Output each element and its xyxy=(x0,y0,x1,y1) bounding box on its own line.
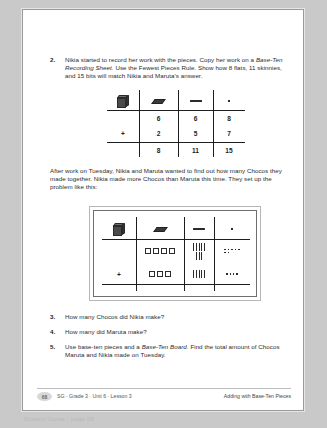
row2-bits-value: 7 xyxy=(227,130,231,137)
flat-piece xyxy=(161,248,167,254)
skinny-tally-group xyxy=(193,243,204,260)
textbook-page: 2. Nikia started to record her work with… xyxy=(22,9,304,411)
flat-piece xyxy=(153,248,159,254)
pieces-row2-bits xyxy=(214,265,250,283)
pieces-header-rule xyxy=(102,239,250,240)
bit-piece xyxy=(224,249,226,251)
skinny-piece xyxy=(204,243,205,251)
row1-bits-value: 8 xyxy=(227,115,231,122)
pieces-header-flat-cell xyxy=(136,220,184,238)
skinny-piece xyxy=(201,252,202,260)
row1-bits: 8 xyxy=(213,111,245,126)
skinny-piece xyxy=(199,270,200,278)
flat-piece xyxy=(149,271,155,277)
skinny-icon xyxy=(193,228,205,230)
pieces-header-bit-cell xyxy=(214,220,250,238)
pieces-row1-skinnies xyxy=(184,240,214,262)
footer-breadcrumb: SG · Grade 3 · Unit 6 · Lesson 3 xyxy=(57,393,132,399)
skinny-piece xyxy=(204,270,205,278)
bit-piece xyxy=(224,252,226,254)
skinny-piece xyxy=(196,252,197,260)
bit-piece xyxy=(228,252,230,254)
flat-icon xyxy=(151,99,166,104)
skinny-piece xyxy=(193,243,194,251)
question-3-number: 3. xyxy=(50,313,55,320)
question-3-text: How many Chocos did Nikia make? xyxy=(65,313,285,321)
row3-skinnies-value: 11 xyxy=(192,147,199,154)
question-4: 4. How many did Maruta make? xyxy=(50,328,285,336)
question-5-text: Use base-ten pieces and a Base-Ten Board… xyxy=(65,343,285,359)
skinny-piece xyxy=(199,243,200,251)
skinny-piece xyxy=(196,243,197,251)
bit-piece xyxy=(233,273,235,275)
page-number-badge: 68 xyxy=(37,392,52,401)
skinny-piece xyxy=(201,270,202,278)
row1-skinnies: 6 xyxy=(178,111,213,126)
questions-list: 3. How many Chocos did Nikia make? 4. Ho… xyxy=(50,313,285,366)
row1-flats-value: 6 xyxy=(157,115,161,122)
footer-lesson-title: Adding with Base-Ten Pieces xyxy=(224,393,291,399)
page-footer: 68 SG · Grade 3 · Unit 6 · Lesson 3 Addi… xyxy=(37,392,291,404)
skinny-piece xyxy=(196,270,197,278)
middle-paragraph: After work on Tuesday, Nikia and Maruta … xyxy=(50,167,285,191)
row3-flats-value: 8 xyxy=(157,147,161,154)
bit-piece xyxy=(228,249,230,251)
pack-icon xyxy=(113,223,126,236)
question-4-text: How many did Maruta make? xyxy=(65,328,285,336)
row2-operator: + xyxy=(107,126,139,141)
skinny-tally-row xyxy=(193,243,204,251)
problem-2: 2. Nikia started to record her work with… xyxy=(50,56,291,80)
question-5-italic-1: Base-Ten Board. xyxy=(142,343,189,350)
bit-piece xyxy=(238,249,240,251)
pieces-header-skinny-cell xyxy=(184,220,214,238)
row2-skinnies-value: 5 xyxy=(194,130,198,137)
bit-piece xyxy=(235,249,237,251)
flat-piece xyxy=(165,271,171,277)
skinny-piece xyxy=(201,243,202,251)
skinny-piece xyxy=(199,252,200,260)
skinny-tally-row xyxy=(193,270,204,278)
header-skinny-cell xyxy=(178,92,213,110)
question-5-number: 5. xyxy=(50,343,55,350)
bit-piece xyxy=(226,273,228,275)
problem-2-text-part1: Nikia started to record her work with th… xyxy=(65,56,256,63)
pieces-row2-operator: + xyxy=(102,265,136,283)
skinny-tally-row xyxy=(196,252,202,260)
flat-piece xyxy=(157,271,163,277)
row1-flats: 6 xyxy=(139,111,178,126)
pieces-row2-flats xyxy=(136,265,184,283)
bit-piece xyxy=(231,249,233,251)
page-caption: Student Guide - page 68 xyxy=(24,416,94,422)
base-ten-board-frame: + xyxy=(89,206,261,301)
header-flat-cell xyxy=(139,92,178,110)
bit-icon xyxy=(228,100,230,102)
pieces-table: + xyxy=(102,217,250,291)
row2-flats: 2 xyxy=(139,126,178,141)
bit-group xyxy=(226,273,238,275)
pieces-row1-flats xyxy=(136,241,184,261)
problem-2-number: 2. xyxy=(50,56,55,63)
pieces-row2-skinnies xyxy=(184,265,214,283)
bit-piece xyxy=(230,273,232,275)
flat-piece xyxy=(169,248,175,254)
bit-piece xyxy=(236,273,238,275)
question-5-text-part1: Use base-ten pieces and a xyxy=(65,343,142,350)
bit-icon xyxy=(231,228,233,230)
pieces-header-pack-cell xyxy=(103,220,136,238)
bit-row xyxy=(224,252,229,254)
flat-piece-group xyxy=(145,248,175,254)
row3-skinnies: 11 xyxy=(178,143,213,157)
question-3: 3. How many Chocos did Nikia make? xyxy=(50,313,285,321)
page-content: 2. Nikia started to record her work with… xyxy=(23,10,303,410)
pieces-row2-operator-value: + xyxy=(117,271,121,278)
row2-bits: 7 xyxy=(213,126,245,141)
pieces-bottom-rule xyxy=(102,284,250,285)
row1-skinnies-value: 6 xyxy=(194,115,198,122)
flat-piece xyxy=(145,248,151,254)
header-pack-cell xyxy=(107,92,139,110)
pieces-row1-bits xyxy=(214,241,250,261)
problem-2-text: Nikia started to record her work with th… xyxy=(65,56,291,80)
row3-bits-value: 15 xyxy=(225,147,232,154)
flat-piece-group xyxy=(149,271,171,277)
question-5: 5. Use base-ten pieces and a Base-Ten Bo… xyxy=(50,343,285,359)
